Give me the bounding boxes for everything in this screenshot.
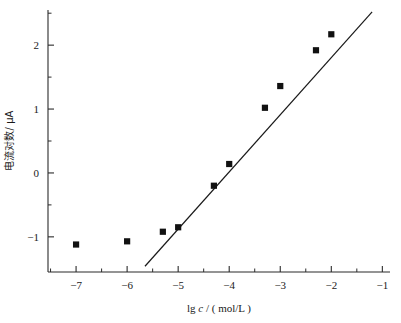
- x-tick-label: −7: [70, 279, 82, 291]
- y-tick-label: 0: [34, 167, 40, 179]
- x-tick-label: −2: [325, 279, 337, 291]
- data-point-marker: [160, 229, 166, 235]
- y-tick-label: 2: [34, 39, 40, 51]
- x-tick-label: −3: [274, 279, 286, 291]
- y-axis-title: 电流对数/ μA: [3, 110, 15, 171]
- data-point-marker: [226, 161, 232, 167]
- data-point-marker: [124, 238, 130, 244]
- x-tick-label: −1: [376, 279, 388, 291]
- y-tick-label: 1: [34, 103, 40, 115]
- chart-figure: −7−6−5−4−3−2−1−1012lg c / ( mol/L )电流对数/…: [0, 0, 401, 323]
- x-axis-title: lg c / ( mol/L ): [187, 302, 251, 315]
- data-point-marker: [211, 183, 217, 189]
- data-point-marker: [175, 224, 181, 230]
- data-point-marker: [262, 105, 268, 111]
- scatter-plot: −7−6−5−4−3−2−1−1012lg c / ( mol/L )电流对数/…: [0, 0, 401, 323]
- x-tick-label: −5: [172, 279, 184, 291]
- data-point-marker: [328, 31, 334, 37]
- x-tick-label: −6: [121, 279, 133, 291]
- data-point-marker: [313, 47, 319, 53]
- data-point-marker: [73, 241, 79, 247]
- y-tick-label: −1: [27, 231, 39, 243]
- data-point-marker: [277, 83, 283, 89]
- x-tick-label: −4: [223, 279, 235, 291]
